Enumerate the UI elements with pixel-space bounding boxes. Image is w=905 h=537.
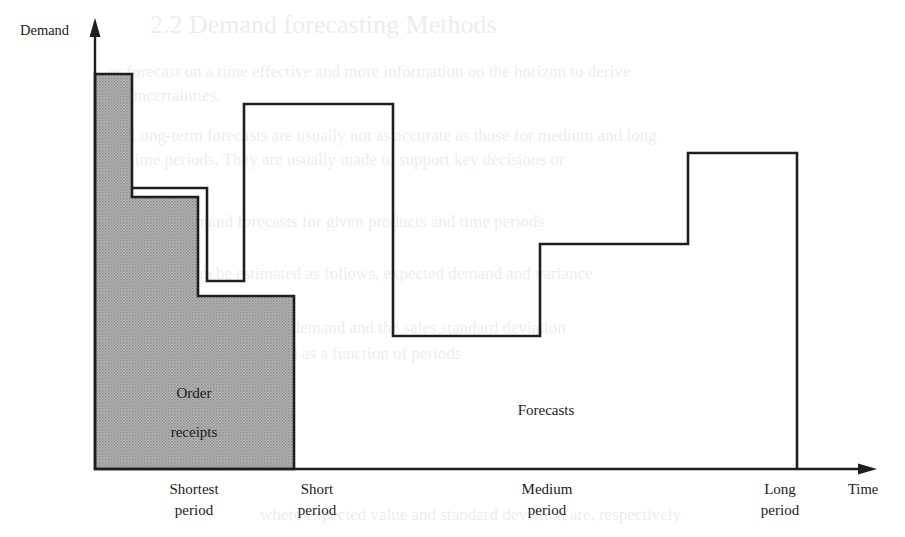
x-axis-arrow-icon <box>858 464 877 475</box>
forecasts-label: Forecasts <box>496 400 596 420</box>
y-axis-arrow-icon <box>90 18 101 37</box>
period-long-line1: Long <box>740 479 820 499</box>
order-receipts-label-line2: receipts <box>154 422 234 442</box>
period-medium-line2: period <box>502 500 592 520</box>
period-shortest-line1: Shortest <box>149 479 239 499</box>
period-long-line2: period <box>740 500 820 520</box>
order-receipts-area <box>95 74 294 469</box>
period-medium-line1: Medium <box>502 479 592 499</box>
order-receipts-label-line1: Order <box>154 383 234 403</box>
demand-horizon-diagram <box>0 0 905 537</box>
period-short-line1: Short <box>277 479 357 499</box>
x-axis-label: Time <box>848 479 878 499</box>
y-axis-label: Demand <box>20 20 69 40</box>
period-shortest-line2: period <box>149 500 239 520</box>
period-short-line2: period <box>277 500 357 520</box>
